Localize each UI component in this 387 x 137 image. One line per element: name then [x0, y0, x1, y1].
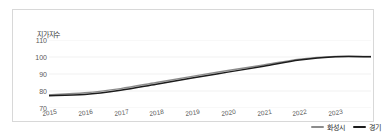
chart-legend: 화성시경기 [275, 120, 381, 134]
legend-swatch-icon [311, 126, 324, 129]
legend-item[interactable]: 화성시 [311, 122, 344, 132]
line-chart-svg [49, 40, 371, 108]
y-axis-tick-labels: 110100908070 [19, 40, 47, 108]
series-line [49, 57, 371, 96]
x-axis-tick-labels: 201520162017201820192020202120222023 [49, 108, 371, 120]
x-axis-tick: 2018 [149, 108, 165, 118]
x-axis-tick: 2015 [42, 108, 58, 118]
y-axis-tick: 80 [21, 88, 47, 95]
chart-container: 지가지수 110100908070 2015201620172018201920… [12, 9, 374, 122]
legend-label: 경기 [369, 122, 381, 132]
x-axis-tick: 2023 [328, 108, 344, 118]
x-axis-tick: 2021 [257, 108, 273, 118]
legend-item[interactable]: 경기 [353, 122, 381, 132]
legend-label: 화성시 [327, 122, 344, 132]
x-axis-tick: 2020 [221, 108, 237, 118]
x-axis-tick: 2017 [113, 108, 129, 118]
y-axis-tick: 110 [21, 37, 47, 44]
x-axis-tick: 2016 [78, 108, 94, 118]
series-lines [49, 56, 371, 95]
plot-area [49, 40, 371, 108]
y-axis-tick: 90 [21, 71, 47, 78]
x-axis-tick: 2022 [292, 108, 308, 118]
y-axis-tick: 100 [21, 54, 47, 61]
x-axis-tick: 2019 [185, 108, 201, 118]
legend-swatch-icon [353, 126, 366, 129]
